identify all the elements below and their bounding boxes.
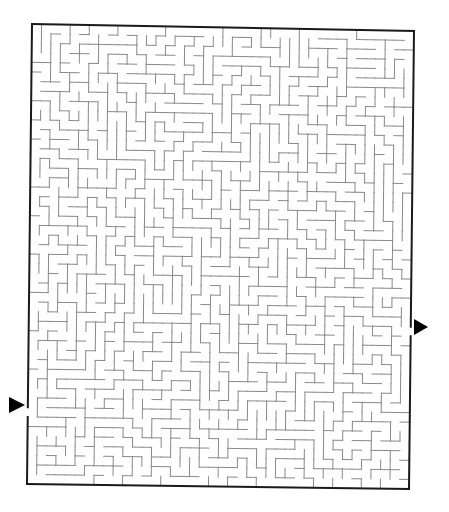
start-arrow-icon (9, 397, 25, 413)
maze-board (0, 0, 449, 512)
finish-arrow-icon (414, 319, 428, 335)
maze-walls (28, 24, 414, 488)
